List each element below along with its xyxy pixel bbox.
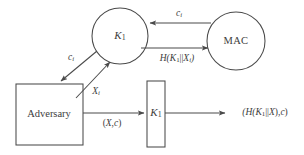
mac-attack-diagram: K1 MAC Adversary K1 ci H(K1||Xi) ci Xi (… bbox=[0, 0, 304, 155]
edge-hash-top-label: H(K1||Xi) bbox=[160, 54, 195, 64]
diagram-canvas bbox=[0, 0, 304, 155]
edge-output-label: (H(K1||X),c) bbox=[242, 108, 288, 118]
edge-xi-diagonal-label: Xi bbox=[92, 87, 100, 97]
key-circle-top-label: K1 bbox=[114, 30, 125, 43]
adversary-box-label: Adversary bbox=[27, 109, 71, 120]
key-rect-bottom-label: K1 bbox=[150, 107, 161, 120]
mac-circle-label: MAC bbox=[224, 36, 249, 47]
edge-ci-diagonal-label: ci bbox=[68, 53, 74, 63]
edge-xc-label: (X,c) bbox=[103, 119, 122, 129]
edge-ci-top-label: ci bbox=[176, 9, 182, 19]
edge-key-to-adversary-line bbox=[61, 51, 97, 81]
